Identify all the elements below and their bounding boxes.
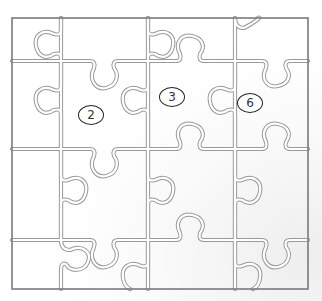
piece-number-badge-3: 3	[159, 87, 185, 107]
cut-lines-outer	[12, 18, 308, 289]
piece-number-label: 6	[246, 96, 254, 110]
jigsaw-puzzle-board	[0, 0, 322, 301]
piece-number-label: 3	[168, 90, 176, 104]
piece-number-badge-6: 6	[237, 93, 263, 113]
piece-number-label: 2	[87, 108, 95, 122]
piece-number-badge-2: 2	[78, 105, 104, 125]
